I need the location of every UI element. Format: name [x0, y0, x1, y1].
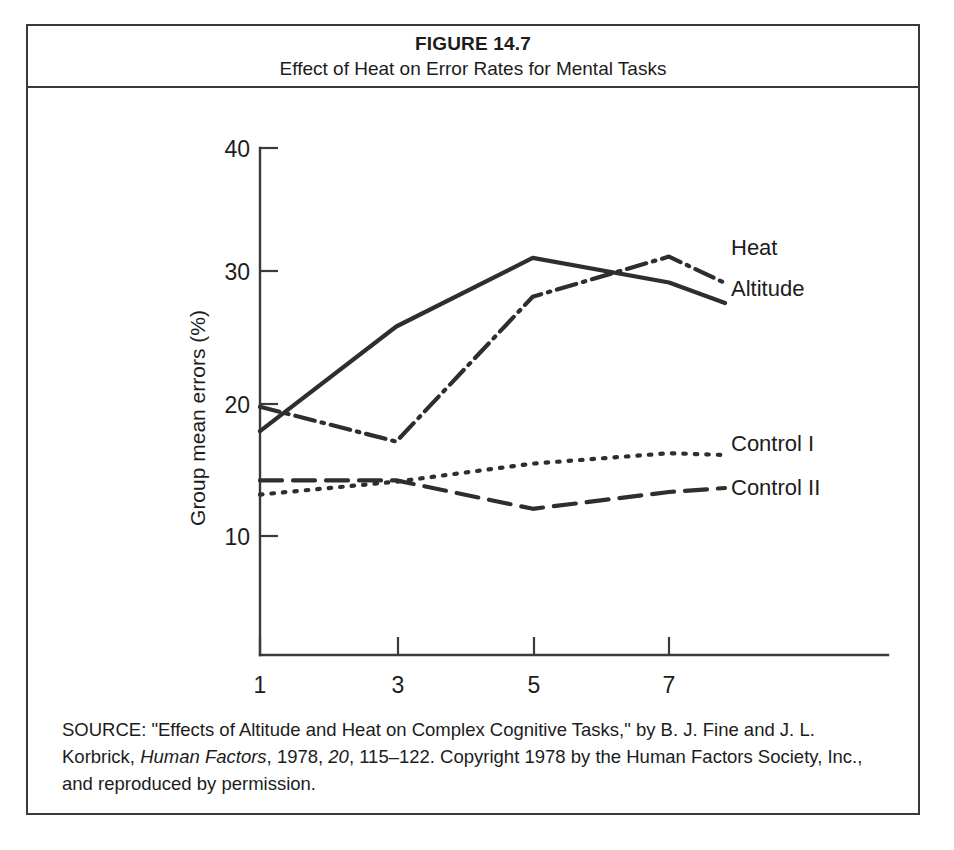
- series-label-control-i: Control I: [731, 431, 814, 456]
- x-tick-label-5: 5: [528, 672, 541, 698]
- x-axis-tick-labels: 1 3 5 7: [254, 672, 676, 698]
- x-axis-ticks: [260, 637, 669, 655]
- figure-title-block: FIGURE 14.7 Effect of Heat on Error Rate…: [28, 26, 918, 88]
- x-tick-label-3: 3: [392, 672, 405, 698]
- source-volume: 20: [328, 746, 349, 767]
- source-prefix: SOURCE:: [62, 719, 146, 740]
- figure-number: FIGURE 14.7: [28, 32, 918, 56]
- source-journal: Human Factors: [140, 746, 266, 767]
- series-label-heat: Heat: [731, 235, 777, 260]
- source-text-part2: , 1978,: [267, 746, 329, 767]
- x-tick-label-7: 7: [663, 672, 676, 698]
- series-line-control-ii: [260, 480, 725, 508]
- figure-title: Effect of Heat on Error Rates for Mental…: [28, 56, 918, 82]
- x-tick-label-1: 1: [254, 672, 267, 698]
- y-axis-ticks: [260, 148, 278, 536]
- series-end-labels: Heat Altitude Control I Control II: [731, 235, 820, 500]
- y-tick-label-30: 30: [224, 259, 250, 285]
- source-note: SOURCE: "Effects of Altitude and Heat on…: [62, 716, 882, 797]
- y-tick-label-40: 40: [224, 136, 250, 162]
- series-line-heat: [260, 257, 725, 442]
- figure-frame: FIGURE 14.7 Effect of Heat on Error Rate…: [26, 24, 920, 815]
- chart-plot-area: 40 30 20 10 1 3 5 7 Group mean errors (%…: [28, 88, 918, 708]
- y-tick-label-10: 10: [224, 524, 250, 550]
- y-axis-tick-labels: 40 30 20 10: [224, 136, 250, 550]
- y-tick-label-20: 20: [224, 392, 250, 418]
- series-line-control-i: [260, 453, 725, 494]
- line-chart: 40 30 20 10 1 3 5 7 Group mean errors (%…: [28, 88, 918, 708]
- series-group: [260, 257, 725, 509]
- series-label-altitude: Altitude: [731, 276, 804, 301]
- y-axis-title: Group mean errors (%): [186, 310, 209, 526]
- series-line-altitude: [260, 258, 725, 431]
- series-label-control-ii: Control II: [731, 475, 820, 500]
